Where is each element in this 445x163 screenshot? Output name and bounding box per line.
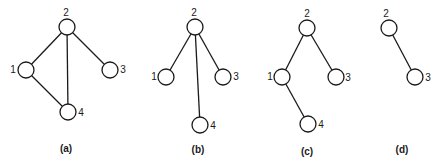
- node-4-circle: [60, 104, 76, 120]
- node-1-label: 1: [267, 71, 273, 82]
- node-1-circle: [274, 69, 290, 85]
- panel-caption: (c): [301, 146, 313, 157]
- panel-caption: (a): [60, 143, 72, 154]
- node-1-circle: [18, 62, 34, 78]
- node-2-label: 2: [304, 8, 310, 19]
- edge-2-4: [195, 27, 200, 125]
- node-3-circle: [102, 62, 118, 78]
- node-1-circle: [158, 69, 174, 85]
- node-3-label: 3: [233, 71, 239, 82]
- edge-2-1: [26, 27, 67, 70]
- node-2-circle: [59, 19, 75, 35]
- node-1-label: 1: [10, 64, 16, 75]
- node-3-circle: [407, 69, 423, 85]
- edge-2-3: [67, 27, 110, 70]
- node-3-circle: [328, 69, 344, 85]
- panel-b: 2134(b): [151, 7, 239, 155]
- node-3-label: 3: [425, 72, 431, 83]
- panel-caption: (b): [192, 144, 205, 155]
- edge-2-1: [166, 27, 195, 77]
- panel-d: 23(d): [381, 8, 431, 155]
- node-3-label: 3: [345, 72, 351, 83]
- node-4-label: 4: [78, 107, 84, 118]
- edge-1-4: [26, 70, 68, 112]
- panel-a: 2134(a): [10, 7, 126, 154]
- node-2-label: 2: [63, 7, 69, 18]
- panel-c: 2134(c): [267, 8, 351, 157]
- node-3-label: 3: [120, 64, 126, 75]
- node-3-circle: [215, 69, 231, 85]
- node-4-label: 4: [210, 120, 216, 131]
- panels-root: 2134(a)2134(b)2134(c)23(d): [10, 7, 431, 157]
- edge-2-4: [67, 27, 68, 112]
- node-2-circle: [187, 19, 203, 35]
- node-2-label: 2: [383, 8, 389, 19]
- panel-caption: (d): [396, 144, 409, 155]
- node-4-label: 4: [318, 119, 324, 130]
- graph-figure: 2134(a)2134(b)2134(c)23(d): [0, 0, 445, 163]
- node-1-label: 1: [151, 71, 157, 82]
- node-2-label: 2: [191, 7, 197, 18]
- node-2-circle: [299, 20, 315, 36]
- node-4-circle: [300, 116, 316, 132]
- node-4-circle: [192, 117, 208, 133]
- node-2-circle: [381, 20, 397, 36]
